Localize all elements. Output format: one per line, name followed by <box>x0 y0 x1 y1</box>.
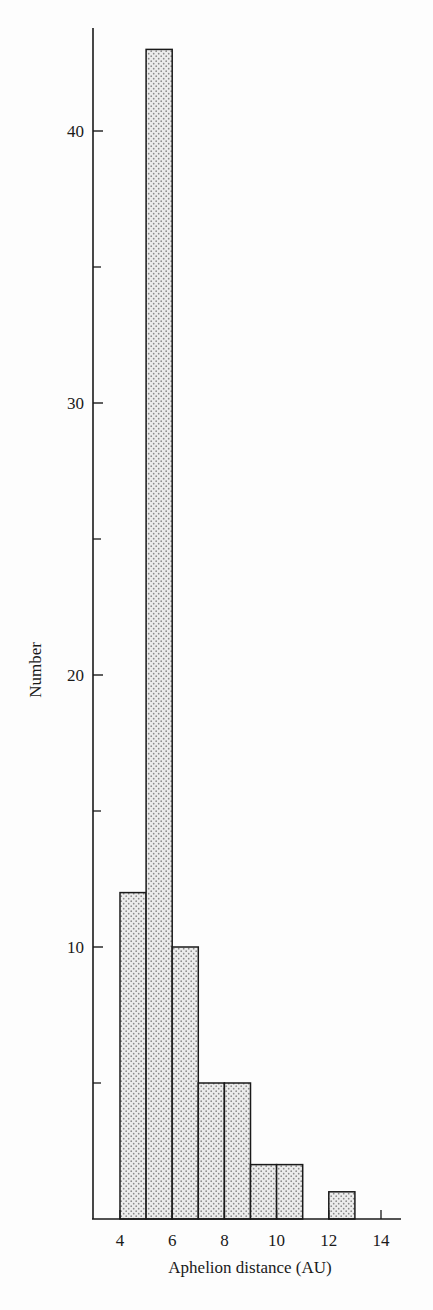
y-axis-ticks: 10203040 <box>67 122 103 1083</box>
histogram-chart: 10203040 468101214 <box>0 0 433 1310</box>
histogram-bar <box>146 49 172 1219</box>
y-tick-label: 20 <box>67 666 84 685</box>
y-tick-label: 40 <box>67 122 84 141</box>
x-tick-label: 4 <box>116 1231 125 1250</box>
histogram-bar <box>277 1165 303 1219</box>
histogram-bars <box>120 49 355 1219</box>
histogram-bar <box>251 1165 277 1219</box>
x-tick-label: 8 <box>220 1231 229 1250</box>
x-tick-label: 6 <box>168 1231 177 1250</box>
histogram-bar <box>120 893 146 1219</box>
y-tick-label: 10 <box>67 938 84 957</box>
y-tick-label: 30 <box>67 394 84 413</box>
y-axis-label: Number <box>26 640 46 700</box>
histogram-bar <box>329 1192 355 1219</box>
x-tick-label: 10 <box>268 1231 285 1250</box>
histogram-bar <box>224 1083 250 1219</box>
histogram-bar <box>198 1083 224 1219</box>
x-tick-label: 12 <box>320 1231 337 1250</box>
x-axis-label: Aphelion distance (AU) <box>100 1258 400 1278</box>
x-tick-label: 14 <box>373 1231 391 1250</box>
histogram-bar <box>172 947 198 1219</box>
